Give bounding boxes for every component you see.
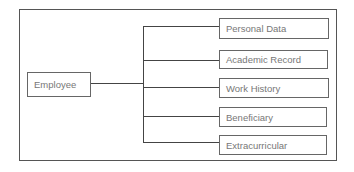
connector-branch xyxy=(143,116,220,117)
node-employee: Employee xyxy=(27,72,91,97)
connector-branch xyxy=(143,60,220,61)
connector-branch xyxy=(143,87,220,88)
node-extracurricular: Extracurricular xyxy=(219,135,327,155)
connector-branch xyxy=(143,26,220,27)
connector-root xyxy=(91,83,144,84)
node-academic-record: Academic Record xyxy=(219,50,328,69)
connector-trunk xyxy=(143,26,144,143)
node-label: Academic Record xyxy=(226,54,301,65)
node-label: Personal Data xyxy=(226,23,286,34)
node-label: Work History xyxy=(226,83,280,94)
connector-branch xyxy=(143,142,220,143)
node-beneficiary: Beneficiary xyxy=(219,107,327,127)
node-label: Extracurricular xyxy=(226,140,287,151)
node-label: Beneficiary xyxy=(226,112,273,123)
node-personal-data: Personal Data xyxy=(219,18,329,39)
node-label: Employee xyxy=(34,79,76,90)
node-work-history: Work History xyxy=(219,78,329,98)
